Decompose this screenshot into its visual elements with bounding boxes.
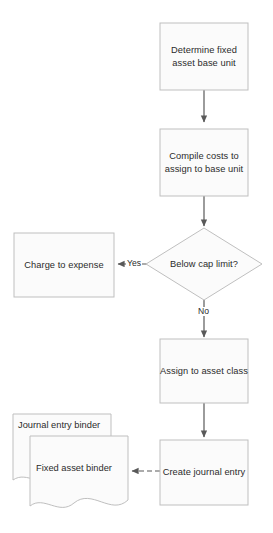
node-label-journal-entry-binder: Journal entry binder bbox=[18, 419, 100, 431]
node-compile-costs-to-assign-to-base-unit bbox=[160, 129, 248, 196]
node-charge-to-expense bbox=[14, 233, 114, 297]
edge-label-yes: Yes bbox=[126, 259, 142, 268]
node-label-fixed-asset-binder: Fixed asset binder bbox=[36, 462, 112, 474]
node-create-journal-entry bbox=[160, 440, 248, 505]
edge-label-no: No bbox=[197, 307, 210, 316]
node-below-cap-limit bbox=[146, 228, 262, 300]
flowchart-canvas: Determine fixed asset base unit Compile … bbox=[0, 0, 273, 533]
node-determine-fixed-asset-base-unit bbox=[160, 23, 248, 90]
node-assign-to-asset-class bbox=[160, 339, 248, 403]
